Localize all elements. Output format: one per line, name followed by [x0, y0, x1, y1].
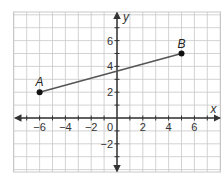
x-tick-label: −4 — [59, 121, 72, 133]
y-tick-label: 4 — [107, 60, 113, 72]
x-tick-label: 2 — [140, 121, 146, 133]
x-axis-label: x — [210, 102, 218, 116]
y-axis-label: y — [122, 10, 130, 24]
origin-label: 0 — [107, 121, 113, 133]
y-tick-label: 2 — [107, 86, 113, 98]
point-A — [37, 89, 43, 95]
x-tick-label: 4 — [166, 121, 172, 133]
x-tick-label: 6 — [191, 121, 197, 133]
tick-labels: yx−6−4−2246−22460 — [33, 10, 217, 150]
x-tick-label: −2 — [85, 121, 98, 133]
point-label-B: B — [177, 37, 185, 51]
point-label-A: A — [35, 75, 44, 89]
x-tick-label: −6 — [33, 121, 46, 133]
point-B — [179, 51, 185, 57]
coordinate-plane: yx−6−4−2246−22460 AB — [0, 0, 224, 177]
y-tick-label: −2 — [100, 138, 113, 150]
y-tick-label: 6 — [107, 35, 113, 47]
